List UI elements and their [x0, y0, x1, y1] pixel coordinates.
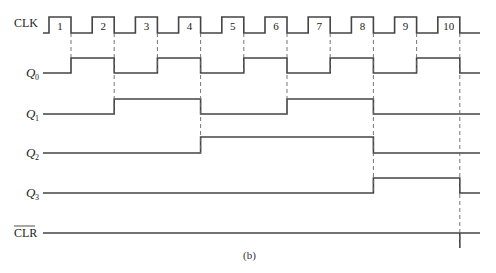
clock-pulse-number: 4 [187, 20, 193, 32]
clock-pulse-number: 2 [100, 20, 106, 32]
q2-label: Q2 [26, 145, 39, 162]
q0-label: Q0 [26, 65, 39, 82]
q1-label: Q1 [26, 106, 39, 123]
clock-pulse-number: 10 [443, 20, 455, 32]
clk-waveform [43, 17, 480, 33]
clk-label: CLK [14, 16, 38, 30]
figure-caption: (b) [243, 249, 256, 262]
svg-text:3: 3 [35, 193, 39, 202]
q3-label: Q3 [26, 185, 39, 202]
clock-pulse-number: 9 [403, 20, 409, 32]
q1-waveform [43, 99, 480, 114]
clock-pulse-number: 6 [273, 20, 279, 32]
clock-pulse-number: 1 [57, 20, 63, 32]
clock-pulse-number: 7 [316, 20, 322, 32]
clock-pulse-number: 3 [144, 20, 150, 32]
svg-text:CLR: CLR [14, 226, 37, 240]
svg-text:0: 0 [35, 73, 39, 82]
timing-diagram: CLK Q0 Q1 Q2 Q3 CLR 12345678910 (b) [0, 0, 496, 273]
q3-waveform [43, 178, 480, 193]
q2-waveform [43, 137, 480, 153]
clock-pulse-number: 8 [360, 20, 366, 32]
svg-text:1: 1 [35, 114, 39, 123]
q0-waveform [43, 58, 480, 73]
svg-text:2: 2 [35, 153, 39, 162]
clock-pulse-number: 5 [230, 20, 236, 32]
clr-label: CLR [14, 226, 37, 240]
